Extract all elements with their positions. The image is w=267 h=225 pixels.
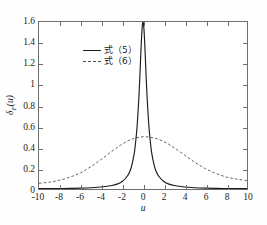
ytick-mark: [39, 107, 43, 108]
xtick-mark: [123, 185, 124, 189]
cut-off-caption-text: [4, 0, 114, 9]
ytick-mark-right: [243, 128, 247, 129]
legend-label-eq5: 式（5）: [104, 45, 137, 56]
xtick-label: -6: [76, 192, 84, 202]
xtick-mark-top: [123, 22, 124, 26]
legend: 式（5） 式（6）: [83, 45, 141, 67]
xtick-mark-top: [81, 22, 82, 26]
series-line-eq6: [39, 137, 247, 183]
xtick-label: 8: [225, 192, 230, 202]
figure-root: 1.6 1.4 1.2 1 0.8 0.6 0.4 0.2 0 -10 -8 -…: [0, 0, 267, 225]
ytick-mark: [39, 85, 43, 86]
xtick-mark-top: [186, 22, 187, 26]
x-axis-label: u: [141, 203, 146, 213]
xtick-mark: [81, 185, 82, 189]
ytick-mark-right: [243, 107, 247, 108]
series-line-eq5: [39, 22, 247, 189]
ytick-mark: [39, 170, 43, 171]
xtick-mark-top: [228, 22, 229, 26]
legend-item-eq5: 式（5）: [83, 45, 141, 56]
ytick-label: 0.2: [23, 164, 35, 174]
ytick-label: 1.6: [23, 16, 35, 26]
ytick-mark-right: [243, 85, 247, 86]
xtick-mark: [102, 185, 103, 189]
ytick-mark: [39, 128, 43, 129]
legend-line-solid-icon: [83, 50, 101, 51]
ytick-mark-right: [243, 43, 247, 44]
xtick-mark-top: [102, 22, 103, 26]
xtick-mark: [228, 185, 229, 189]
ytick-label: 0.8: [23, 101, 35, 111]
xtick-mark-top: [207, 22, 208, 26]
ytick-label: 1.2: [23, 58, 35, 68]
xtick-mark: [186, 185, 187, 189]
xtick-label: 2: [162, 192, 167, 202]
ytick-label: 1.4: [23, 37, 35, 47]
xtick-label: -4: [97, 192, 105, 202]
xtick-mark: [207, 185, 208, 189]
legend-line-dashed-icon: [83, 61, 101, 62]
ytick-label: 0.6: [23, 122, 35, 132]
legend-label-eq6: 式（6）: [104, 56, 137, 67]
xtick-mark: [144, 185, 145, 189]
y-axis-label-symbol: δ: [5, 110, 15, 114]
xtick-label: 6: [204, 192, 209, 202]
xtick-mark-top: [165, 22, 166, 26]
ytick-mark: [39, 149, 43, 150]
chart-curves: [39, 22, 247, 189]
legend-item-eq6: 式（6）: [83, 56, 141, 67]
y-axis-label-arg: (u): [5, 95, 15, 106]
xtick-label: -2: [118, 192, 126, 202]
xtick-label: 4: [183, 192, 188, 202]
ytick-mark: [39, 64, 43, 65]
xtick-label: -10: [32, 192, 45, 202]
y-axis-label-subscript: F: [10, 106, 18, 110]
xtick-label: 0: [141, 192, 146, 202]
xtick-mark: [60, 185, 61, 189]
xtick-label: -8: [55, 192, 63, 202]
y-axis-label: δF(u): [5, 95, 18, 115]
xtick-mark: [165, 185, 166, 189]
ytick-label: 1: [30, 79, 35, 89]
ytick-mark: [39, 43, 43, 44]
ytick-mark-right: [243, 149, 247, 150]
xtick-mark-top: [60, 22, 61, 26]
ytick-mark-right: [243, 64, 247, 65]
xtick-mark-top: [144, 22, 145, 26]
plot-area: 式（5） 式（6）: [38, 21, 248, 190]
ytick-label: 0.4: [23, 143, 35, 153]
xtick-label: 10: [243, 192, 253, 202]
ytick-mark-right: [243, 170, 247, 171]
